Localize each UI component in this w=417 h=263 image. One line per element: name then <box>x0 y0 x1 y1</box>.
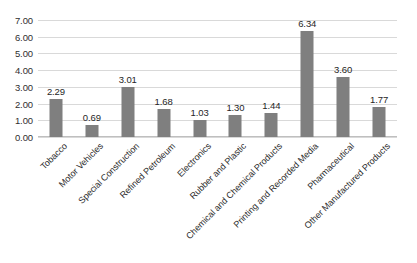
y-axis-tick-label: 3.00 <box>15 81 33 92</box>
bar-value-label: 1.44 <box>262 100 280 111</box>
bar-value-label: 0.69 <box>83 112 101 123</box>
bar[interactable] <box>229 115 242 137</box>
bar[interactable] <box>265 113 278 137</box>
bar[interactable] <box>85 125 98 137</box>
bar[interactable] <box>373 107 386 137</box>
bar[interactable] <box>49 99 62 137</box>
y-axis-tick-label: 6.00 <box>15 31 33 42</box>
y-axis-tick-label: 2.00 <box>15 98 33 109</box>
bar-slot: 3.01 <box>110 20 146 137</box>
x-axis-tick-label: Special Construction <box>76 141 141 206</box>
bar-value-label: 1.77 <box>370 94 388 105</box>
bar-slot: 0.69 <box>74 20 110 137</box>
plot-area: 2.290.693.011.681.031.301.446.343.601.77 <box>38 20 397 137</box>
x-axis: TobaccoMotor VehiclesSpecial Constructio… <box>38 139 397 263</box>
bar-value-label: 2.29 <box>47 86 65 97</box>
bar-slot: 3.60 <box>325 20 361 137</box>
bar-chart: 0.001.002.003.004.005.006.007.00 2.290.6… <box>0 0 417 263</box>
bar-value-label: 3.60 <box>334 64 352 75</box>
bar-slot: 1.68 <box>146 20 182 137</box>
bar-value-label: 1.30 <box>226 102 244 113</box>
bar-slot: 6.34 <box>289 20 325 137</box>
bar[interactable] <box>337 77 350 137</box>
bar-slot: 1.44 <box>253 20 289 137</box>
y-axis-tick-label: 7.00 <box>15 15 33 26</box>
bar-series: 2.290.693.011.681.031.301.446.343.601.77 <box>38 20 397 137</box>
x-axis-tick-label: Tobacco <box>38 141 69 172</box>
bar[interactable] <box>121 87 134 137</box>
bar-value-label: 1.03 <box>190 107 208 118</box>
bar[interactable] <box>193 120 206 137</box>
y-axis-tick-label: 4.00 <box>15 65 33 76</box>
y-axis-tick-label: 0.00 <box>15 132 33 143</box>
bar-slot: 1.77 <box>361 20 397 137</box>
gridline <box>38 137 397 138</box>
bar-value-label: 1.68 <box>155 96 173 107</box>
bar-value-label: 3.01 <box>119 74 137 85</box>
bar[interactable] <box>157 109 170 137</box>
y-axis-tick-label: 1.00 <box>15 115 33 126</box>
bar-slot: 2.29 <box>38 20 74 137</box>
bar-slot: 1.03 <box>182 20 218 137</box>
y-axis-tick-label: 5.00 <box>15 48 33 59</box>
bar-value-label: 6.34 <box>298 18 316 29</box>
bar-slot: 1.30 <box>218 20 254 137</box>
y-axis: 0.001.002.003.004.005.006.007.00 <box>0 0 36 263</box>
bar[interactable] <box>301 31 314 137</box>
